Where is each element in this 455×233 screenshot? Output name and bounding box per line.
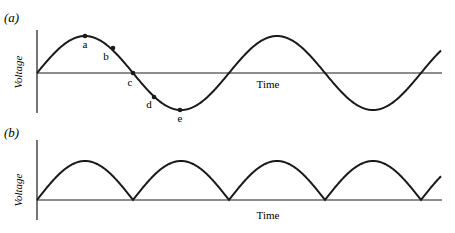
- panel-a-label: (a): [4, 10, 19, 25]
- panel-b-label: (b): [4, 125, 19, 140]
- x-axis-label: Time: [257, 78, 280, 90]
- point-b-label: b: [103, 50, 109, 62]
- rectified-wave: [37, 161, 441, 200]
- panel-a: (a) Voltage Time a b c d e: [4, 10, 442, 124]
- point-a-label: a: [83, 38, 88, 50]
- x-axis-label: Time: [257, 209, 280, 221]
- panel-b: (b) Voltage Time: [4, 125, 442, 221]
- point-b: [111, 46, 116, 51]
- figure: (a) Voltage Time a b c d e (b) Voltage T…: [0, 0, 455, 233]
- y-axis-label: Voltage: [12, 55, 24, 88]
- point-d-label: d: [146, 98, 152, 110]
- point-e-label: e: [178, 112, 183, 124]
- y-axis-label: Voltage: [12, 173, 24, 206]
- point-c: [131, 71, 136, 76]
- annotation-points: a b c d e: [83, 34, 183, 124]
- point-d: [152, 95, 157, 100]
- point-c-label: c: [128, 76, 133, 88]
